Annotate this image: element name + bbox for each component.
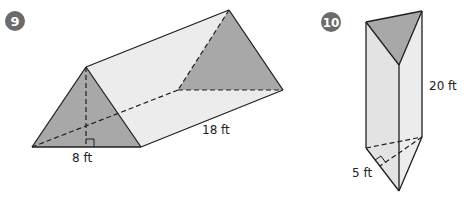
prism-10 [366, 11, 422, 191]
badge-10-number: 10 [323, 16, 340, 30]
label-length-18ft: 18 ft [202, 123, 230, 137]
badge-9-number: 9 [10, 14, 19, 29]
problem-10: 10 2 [321, 11, 457, 191]
figure-canvas: 9 [0, 0, 467, 202]
label-height-20ft: 20 ft [429, 79, 457, 93]
badge-9: 9 [5, 11, 25, 31]
label-base-8ft: 8 ft [72, 151, 92, 165]
label-base-5ft: 5 ft [352, 166, 372, 180]
problem-9: 9 [5, 10, 283, 165]
prism-9 [32, 10, 283, 147]
badge-10: 10 [321, 12, 341, 32]
